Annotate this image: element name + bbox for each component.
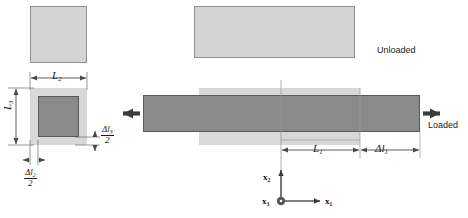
figure-linework (0, 0, 468, 218)
dimension-label-L2: L2 (52, 69, 62, 82)
dimension-label-L3: L3 (1, 100, 14, 110)
dimension-label-delta-l1: Δl1 (375, 142, 388, 155)
axis-label-x3: x3 (262, 196, 269, 207)
axis-label-x2: x2 (263, 172, 270, 183)
axis-x3-out-of-page-center (280, 200, 283, 203)
dimension-label-delta-l2-over-2: Δl2 2 (24, 168, 37, 189)
dimension-label-L1: L1 (313, 142, 323, 155)
dimension-label-delta-l3-over-2: Δl3 2 (101, 125, 114, 146)
figure-canvas: Unloaded Loaded (0, 0, 468, 218)
axis-label-x1: x1 (325, 196, 332, 207)
